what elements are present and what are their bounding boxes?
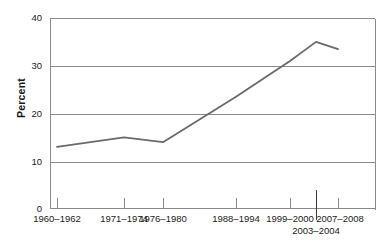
line-chart: Percent 40 30 20 10 0 1960–1962 1971–197… [0,0,383,246]
series-layer [0,0,383,246]
series-line-percent [57,42,338,147]
